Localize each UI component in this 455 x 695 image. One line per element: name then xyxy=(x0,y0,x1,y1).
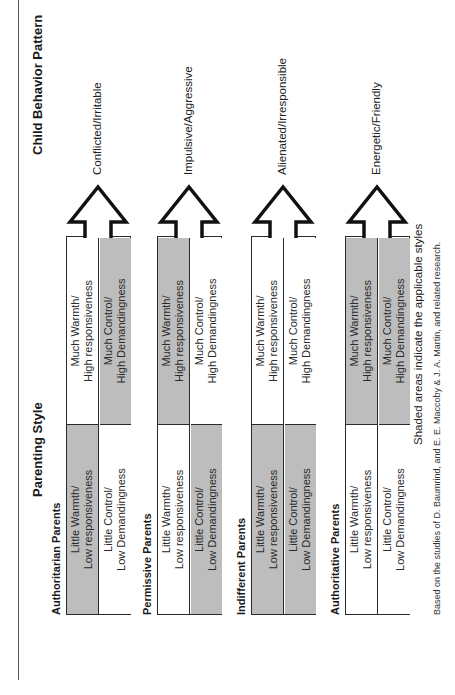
style-grid: Little Warmth/ Low responsivenessMuch Wa… xyxy=(66,236,131,615)
cell-low-control: Little Control/ Low Demandingness xyxy=(285,424,317,614)
cell-high-warmth: Much Warmth/ High responsiveness xyxy=(158,238,190,424)
outcome-label: Conflicted/Irritable xyxy=(91,82,103,175)
outcome-label: Alienated/Irresponsible xyxy=(276,58,288,175)
parenting-styles-diagram: Parenting Style Child Behavior Pattern A… xyxy=(0,0,455,695)
arrow-right-icon xyxy=(342,178,412,238)
shading-note: Shaded areas indicate the applicable sty… xyxy=(412,224,424,445)
cell-high-control: Much Control/ High Demandingness xyxy=(379,238,411,424)
outcome-label: Energetic/Friendly xyxy=(370,82,382,175)
cell-high-control: Much Control/ High Demandingness xyxy=(100,238,132,424)
arrow-right-icon xyxy=(63,178,133,238)
style-grid: Little Warmth/ Low responsivenessMuch Wa… xyxy=(157,236,222,615)
cell-low-warmth: Little Warmth/ Low responsiveness xyxy=(158,424,190,614)
cell-low-control: Little Control/ Low Demandingness xyxy=(100,424,132,614)
cell-high-warmth: Much Warmth/ High responsiveness xyxy=(346,238,378,424)
cell-low-warmth: Little Warmth/ Low responsiveness xyxy=(67,424,99,614)
cell-low-warmth: Little Warmth/ Low responsiveness xyxy=(346,424,378,614)
cell-low-warmth: Little Warmth/ Low responsiveness xyxy=(252,424,284,614)
heading-child-behavior-pattern: Child Behavior Pattern xyxy=(30,15,45,155)
cell-high-control: Much Control/ High Demandingness xyxy=(191,238,223,424)
style-label: Indifferent Parents xyxy=(235,518,247,615)
source-citation: Based on the studies of D. Baumrind, and… xyxy=(432,242,442,615)
style-label: Authoritarian Parents xyxy=(50,503,62,615)
cell-low-control: Little Control/ Low Demandingness xyxy=(191,424,223,614)
style-label: Permissive Parents xyxy=(141,513,153,615)
style-label: Authoritative Parents xyxy=(329,504,341,615)
heading-parenting-style: Parenting Style xyxy=(30,402,45,497)
style-grid: Little Warmth/ Low responsivenessMuch Wa… xyxy=(345,236,410,615)
cell-high-warmth: Much Warmth/ High responsiveness xyxy=(67,238,99,424)
page-rule xyxy=(18,0,19,680)
arrow-right-icon xyxy=(248,178,318,238)
cell-high-warmth: Much Warmth/ High responsiveness xyxy=(252,238,284,424)
outcome-label: Impulsive/Aggressive xyxy=(182,66,194,175)
cell-low-control: Little Control/ Low Demandingness xyxy=(379,424,411,614)
cell-high-control: Much Control/ High Demandingness xyxy=(285,238,317,424)
style-grid: Little Warmth/ Low responsivenessMuch Wa… xyxy=(251,236,316,615)
arrow-right-icon xyxy=(154,178,224,238)
